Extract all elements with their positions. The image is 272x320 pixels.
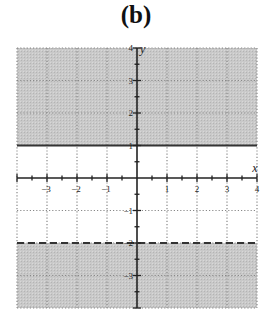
x-tick-label: 3 [225,184,230,194]
x-tick-label: −2 [71,184,81,194]
y-tick-label: 3 [129,76,134,86]
x-tick-label: 4 [255,184,260,194]
inequality-graph: −3−2−112344321−1−2−3yx [0,0,272,320]
y-tick-label: 2 [129,108,134,118]
y-axis-label: y [139,42,146,56]
x-tick-label: −3 [41,184,51,194]
x-axis-label: x [251,161,258,175]
x-tick-label: 2 [195,184,200,194]
y-tick-label: −1 [123,206,133,216]
y-tick-label: 4 [129,43,134,53]
y-tick-label: −3 [123,271,133,281]
y-tick-label: −2 [123,238,133,248]
y-tick-label: 1 [129,141,134,151]
x-tick-label: 1 [165,184,170,194]
x-tick-label: −1 [101,184,111,194]
